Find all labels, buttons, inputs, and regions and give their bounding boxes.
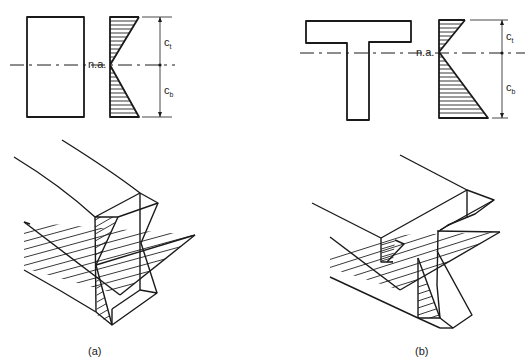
beam-3d-a [0, 140, 220, 328]
beam-3d-b [300, 155, 520, 349]
stress-diagram-b [439, 20, 490, 118]
dimension-b [470, 20, 508, 118]
rect-cross-section [27, 17, 84, 117]
cb-label-a: cb [164, 84, 174, 98]
ct-label-b: ct [506, 30, 514, 44]
neutral-axis-label-a: n.a. [88, 58, 106, 70]
panel-b: n.a. ct cb [300, 20, 525, 357]
dimension-a [142, 17, 172, 117]
panel-a: n.a. ct cb [0, 17, 220, 357]
t-cross-section [306, 21, 411, 120]
neutral-axis-label-b: n.a. [416, 46, 434, 58]
stress-diagram-a [110, 17, 140, 117]
caption-a: (a) [88, 345, 101, 357]
caption-b: (b) [415, 345, 428, 357]
cb-label-b: cb [506, 81, 516, 95]
ct-label-a: ct [164, 36, 172, 50]
bending-stress-figure: n.a. ct cb [0, 0, 532, 362]
